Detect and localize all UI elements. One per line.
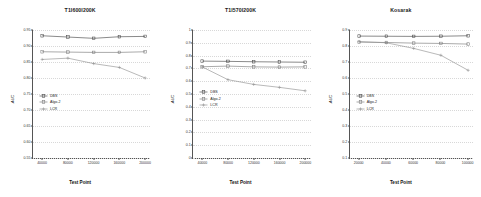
x-axis-tick-label: 80000	[63, 161, 73, 165]
y-axis-label: AUC	[327, 94, 332, 102]
legend-item[interactable]: LCR	[39, 107, 60, 111]
y-axis-tick-label: 0.4	[186, 105, 191, 109]
x-axis-tick-mark	[42, 158, 43, 160]
legend-marker-icon	[356, 94, 365, 98]
x-axis-tick-label: 80000	[223, 161, 233, 165]
y-axis-tick-label: 0.55	[24, 156, 31, 160]
x-axis-tick-mark	[202, 158, 203, 160]
legend-item[interactable]: LCR	[356, 107, 377, 111]
x-axis-tick-mark	[279, 158, 280, 160]
x-axis-tick-mark	[440, 158, 441, 160]
y-axis-tick-label: 0.5	[342, 92, 347, 96]
data-series	[358, 41, 470, 46]
x-axis-tick-mark	[358, 158, 359, 160]
x-axis-tick-label: 100000	[462, 161, 474, 165]
y-axis-tick-label: 0.8	[342, 44, 347, 48]
y-axis-tick-label: 0.80	[24, 76, 31, 80]
chart-panel-2: T1I570I200K AUC 00.10.20.30.40.50.60.70.…	[160, 0, 320, 197]
x-axis-tick-mark	[119, 158, 120, 160]
x-axis-label: Test Point	[321, 180, 481, 185]
y-axis-tick-label: 0.65	[24, 124, 31, 128]
y-axis-label: AUC	[10, 94, 15, 102]
x-axis-tick-mark	[385, 158, 386, 160]
y-axis-tick-label: 0.70	[24, 108, 31, 112]
x-axis-tick-label: 160000	[274, 161, 286, 165]
y-axis-tick-label: 0.6	[342, 76, 347, 80]
legend-marker-icon	[356, 107, 365, 111]
y-axis-tick-label: 0.9	[186, 41, 191, 45]
plot-area: 00.10.20.30.40.50.60.70.80.9140000800001…	[192, 30, 310, 159]
x-axis-tick-label: 20000	[354, 161, 364, 165]
legend-item[interactable]: LCR	[199, 103, 220, 107]
panel-title: T1I570I200K	[160, 7, 320, 13]
legend-marker-icon	[39, 107, 48, 111]
legend-label: Algo-2	[367, 100, 377, 104]
plot-area: 0.10.20.30.40.50.60.70.80.92000040000600…	[349, 30, 473, 159]
x-axis-tick-label: 60000	[408, 161, 418, 165]
y-axis-tick-label: 0.2	[342, 140, 347, 144]
y-axis-tick-label: 0.3	[342, 124, 347, 128]
x-axis-tick-mark	[145, 158, 146, 160]
y-axis-tick-label: 0.7	[186, 66, 191, 70]
x-axis-tick-label: 120000	[88, 161, 100, 165]
legend-item[interactable]: DBS	[39, 94, 60, 98]
legend-label: Algo-2	[50, 100, 60, 104]
multi-panel-line-chart-figure: T1I600I200K AUC 0.550.600.650.700.750.80…	[0, 0, 481, 197]
legend-item[interactable]: DBS	[199, 90, 220, 94]
legend-item[interactable]: Algo-2	[356, 100, 377, 104]
y-axis-tick-label: 0.85	[24, 60, 31, 64]
data-series	[41, 57, 147, 80]
y-axis-tick-label: 0.8	[186, 54, 191, 58]
gridline	[350, 158, 473, 159]
x-axis-label: Test Point	[160, 180, 320, 185]
legend-marker-icon	[199, 103, 208, 107]
plot-area: 0.550.600.650.700.750.800.850.900.954000…	[32, 30, 150, 159]
data-series	[201, 65, 307, 92]
y-axis-tick-label: 0.1	[342, 156, 347, 160]
x-axis-tick-label: 200000	[299, 161, 311, 165]
chart-legend: DBSAlgo-2LCR	[356, 94, 377, 111]
x-axis-tick-mark	[93, 158, 94, 160]
x-axis-tick-mark	[67, 158, 68, 160]
x-axis-tick-mark	[413, 158, 414, 160]
data-series	[358, 34, 470, 37]
gridline	[193, 158, 310, 159]
legend-label: LCR	[367, 107, 374, 111]
legend-item[interactable]: DBS	[356, 94, 377, 98]
y-axis-tick-label: 0.90	[24, 44, 31, 48]
y-axis-tick-label: 0.75	[24, 92, 31, 96]
data-series	[357, 40, 469, 72]
y-axis-tick-label: 0.6	[186, 79, 191, 83]
x-axis-tick-label: 160000	[113, 161, 125, 165]
chart-panel-1: T1I600I200K AUC 0.550.600.650.700.750.80…	[0, 0, 160, 197]
x-axis-tick-mark	[228, 158, 229, 160]
legend-label: DBS	[367, 94, 374, 98]
x-axis-label: Test Point	[0, 180, 160, 185]
x-axis-tick-label: 40000	[37, 161, 47, 165]
panel-title: T1I600I200K	[0, 7, 160, 13]
legend-label: DBS	[50, 94, 57, 98]
chart-panel-3: Kosarak AUC 0.10.20.30.40.50.60.70.80.92…	[321, 0, 481, 197]
legend-label: DBS	[210, 90, 217, 94]
legend-marker-icon	[356, 100, 365, 104]
y-axis-tick-label: 0.95	[24, 28, 31, 32]
legend-marker-icon	[199, 90, 208, 94]
y-axis-tick-label: 0.5	[186, 92, 191, 96]
y-axis-tick-label: 0.1	[186, 143, 191, 147]
x-axis-tick-mark	[305, 158, 306, 160]
legend-item[interactable]: Algo-2	[39, 100, 60, 104]
y-axis-tick-label: 0.7	[342, 60, 347, 64]
x-axis-tick-label: 120000	[248, 161, 260, 165]
x-axis-tick-label: 40000	[381, 161, 391, 165]
x-axis-tick-mark	[467, 158, 468, 160]
y-axis-tick-label: 1	[189, 28, 191, 32]
y-axis-label: AUC	[170, 94, 175, 102]
y-axis-tick-label: 0.3	[186, 118, 191, 122]
legend-label: LCR	[210, 103, 217, 107]
legend-item[interactable]: Algo-2	[199, 97, 220, 101]
x-axis-tick-label: 200000	[139, 161, 151, 165]
data-series	[201, 65, 307, 69]
y-axis-tick-label: 0	[189, 156, 191, 160]
legend-marker-icon	[199, 97, 208, 101]
gridline	[33, 158, 150, 159]
